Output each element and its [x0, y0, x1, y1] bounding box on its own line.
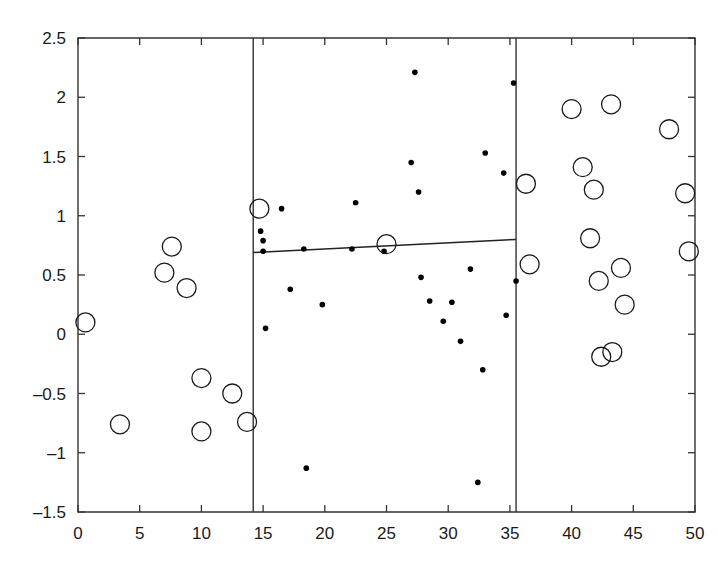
- data-point-dot: [353, 200, 359, 206]
- data-point-circle: [611, 258, 630, 277]
- data-point-dot: [458, 339, 464, 345]
- data-point-circle: [562, 100, 581, 119]
- data-point-circle: [223, 384, 242, 403]
- data-point-dot: [258, 228, 264, 234]
- data-point-dot: [260, 238, 266, 244]
- open-circle-series-group: [76, 95, 698, 441]
- y-tick-label: 0: [57, 325, 66, 344]
- data-point-dot: [440, 318, 446, 324]
- y-tick-label: 1: [57, 207, 66, 226]
- data-point-dot: [263, 326, 269, 332]
- y-tick-label: 0.5: [42, 266, 66, 285]
- data-point-circle: [192, 369, 211, 388]
- data-point-dot: [480, 367, 486, 373]
- x-axis-tick-labels: 05101520253035404550: [73, 524, 704, 543]
- x-tick-label: 50: [686, 524, 705, 543]
- data-point-circle: [76, 313, 95, 332]
- data-point-circle: [660, 120, 679, 139]
- split-lines-group: [253, 38, 516, 512]
- y-axis-tick-labels: –1.5–1–0.500.511.522.5: [33, 29, 66, 522]
- data-point-dot: [287, 286, 293, 292]
- data-point-dot: [503, 312, 509, 318]
- data-point-dot: [320, 302, 326, 308]
- small-dot-series-group: [258, 70, 519, 486]
- x-tick-label: 30: [439, 524, 458, 543]
- x-tick-label: 0: [73, 524, 82, 543]
- x-tick-label: 40: [562, 524, 581, 543]
- data-point-dot: [279, 206, 285, 212]
- data-point-dot: [416, 189, 422, 195]
- y-tick-label: –1: [47, 444, 66, 463]
- data-point-circle: [589, 271, 608, 290]
- data-point-dot: [303, 465, 309, 471]
- data-point-dot: [511, 80, 517, 86]
- data-point-dot: [418, 275, 424, 281]
- data-point-circle: [615, 295, 634, 314]
- y-tick-label: 1.5: [42, 148, 66, 167]
- data-point-circle: [603, 343, 622, 362]
- data-point-dot: [449, 299, 455, 305]
- x-tick-label: 35: [500, 524, 519, 543]
- data-point-circle: [110, 415, 129, 434]
- x-tick-label: 20: [315, 524, 334, 543]
- data-point-circle: [592, 347, 611, 366]
- y-tick-label: 2.5: [42, 29, 66, 48]
- data-point-dot: [501, 170, 507, 176]
- data-point-dot: [412, 70, 418, 76]
- x-tick-label: 15: [254, 524, 273, 543]
- data-point-dot: [301, 246, 307, 252]
- y-tick-label: –0.5: [33, 385, 66, 404]
- data-point-circle: [520, 255, 539, 274]
- data-point-circle: [192, 422, 211, 441]
- data-point-dot: [475, 480, 481, 486]
- x-tick-label: 45: [624, 524, 643, 543]
- data-point-dot: [427, 298, 433, 304]
- data-point-dot: [513, 278, 519, 284]
- data-point-circle: [162, 237, 181, 256]
- x-tick-label: 5: [135, 524, 144, 543]
- data-point-dot: [482, 150, 488, 156]
- plot-canvas: 05101520253035404550 –1.5–1–0.500.511.52…: [0, 0, 718, 570]
- y-tick-label: 2: [57, 88, 66, 107]
- data-point-circle: [155, 263, 174, 282]
- data-point-dot: [260, 249, 266, 255]
- data-point-dot: [468, 266, 474, 272]
- scatter-plot-figure: 05101520253035404550 –1.5–1–0.500.511.52…: [0, 0, 718, 570]
- data-point-dot: [408, 160, 414, 166]
- data-point-circle: [516, 174, 535, 193]
- data-point-dot: [349, 246, 355, 252]
- x-tick-label: 25: [377, 524, 396, 543]
- data-point-circle: [676, 184, 695, 203]
- data-point-circle: [581, 229, 600, 248]
- data-point-circle: [177, 279, 196, 298]
- x-tick-label: 10: [192, 524, 211, 543]
- data-point-circle: [573, 158, 592, 177]
- y-tick-label: –1.5: [33, 503, 66, 522]
- data-point-circle: [602, 95, 621, 114]
- data-point-circle: [584, 180, 603, 199]
